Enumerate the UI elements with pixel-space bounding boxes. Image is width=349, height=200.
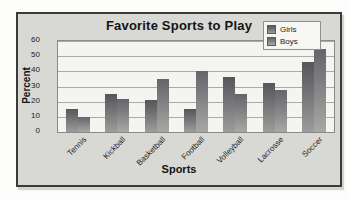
legend-label-girls: Girls <box>280 25 296 34</box>
y-tick-label-60: 60 <box>24 35 40 44</box>
bar-boys-kickball <box>117 99 129 132</box>
x-category-label-volleyball: Volleyball <box>216 135 246 165</box>
y-tick-label-10: 10 <box>24 111 40 120</box>
bar-boys-lacrosse <box>275 90 287 132</box>
gridline-50 <box>58 56 334 57</box>
plot-area <box>57 40 335 133</box>
legend-item-girls: Girls <box>267 25 317 34</box>
x-axis-title: Sports <box>18 163 340 175</box>
bar-boys-tennis <box>78 117 90 132</box>
y-tick-label-20: 20 <box>24 96 40 105</box>
x-category-label-soccer: Soccer <box>301 135 325 159</box>
legend-item-boys: Boys <box>267 37 317 46</box>
bar-girls-lacrosse <box>263 83 275 132</box>
legend: Girls Boys <box>263 21 321 50</box>
x-category-label-football: Football <box>180 135 206 161</box>
bar-boys-football <box>196 71 208 132</box>
x-category-label-lacrosse: Lacrosse <box>256 135 285 164</box>
y-tick-label-30: 30 <box>24 81 40 90</box>
x-category-label-tennis: Tennis <box>65 135 88 158</box>
bar-boys-basketball <box>157 79 169 132</box>
bar-boys-volleyball <box>235 94 247 132</box>
y-tick-label-50: 50 <box>24 50 40 59</box>
y-tick-label-0: 0 <box>24 126 40 135</box>
bar-girls-volleyball <box>223 77 235 132</box>
bar-girls-football <box>184 109 196 132</box>
legend-label-boys: Boys <box>280 37 298 46</box>
y-tick-label-40: 40 <box>24 65 40 74</box>
girls-swatch-icon <box>267 25 276 34</box>
bar-boys-soccer <box>314 49 326 132</box>
bar-girls-basketball <box>145 100 157 132</box>
boys-swatch-icon <box>267 37 276 46</box>
chart-figure: Favorite Sports to Play Girls Boys Perce… <box>16 12 342 187</box>
bar-girls-tennis <box>66 109 78 132</box>
page: Favorite Sports to Play Girls Boys Perce… <box>0 0 349 200</box>
bar-girls-kickball <box>105 94 117 132</box>
x-category-label-kickball: Kickball <box>102 135 128 161</box>
bar-girls-soccer <box>302 62 314 132</box>
